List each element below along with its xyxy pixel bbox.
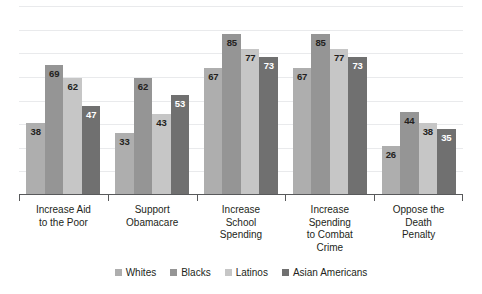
legend-item[interactable]: Blacks — [170, 267, 210, 278]
bar-group: 26443835 — [374, 6, 463, 195]
plot-area: 3869624733624353678577736785777326443835 — [19, 6, 463, 195]
bar-value-label: 85 — [222, 37, 241, 48]
axis-tick — [285, 194, 286, 201]
bar-value-label: 38 — [26, 126, 45, 137]
chart-legend: WhitesBlacksLatinosAsian Americans — [0, 267, 482, 278]
bar-slot: 38 — [419, 123, 438, 195]
bar-slot: 53 — [171, 95, 190, 195]
axis-tick — [19, 194, 20, 201]
bar[interactable]: 73 — [259, 57, 278, 195]
bar-value-label: 47 — [82, 109, 101, 120]
bar-group: 67857773 — [285, 6, 374, 195]
bar-slot: 47 — [82, 106, 101, 195]
bar-value-label: 77 — [241, 52, 260, 63]
bar-group: 67857773 — [197, 6, 286, 195]
bar-slot: 62 — [134, 78, 153, 195]
legend-label: Latinos — [236, 267, 268, 278]
bar-value-label: 85 — [311, 37, 330, 48]
category-label: Support Obamacare — [108, 204, 197, 254]
bar[interactable]: 77 — [241, 49, 260, 195]
axis-tick — [197, 194, 198, 201]
bar-value-label: 26 — [382, 149, 401, 160]
category-label: Increase Spending to Combat Crime — [285, 204, 374, 254]
bar[interactable]: 62 — [134, 78, 153, 195]
bar-value-label: 67 — [293, 71, 312, 82]
bar-value-label: 69 — [45, 68, 64, 79]
axis-tick — [108, 194, 109, 201]
legend-label: Asian Americans — [293, 267, 367, 278]
legend-swatch-icon — [115, 269, 122, 276]
bar-slot: 73 — [259, 57, 278, 195]
bar-value-label: 33 — [115, 136, 134, 147]
bar[interactable]: 53 — [171, 95, 190, 195]
bar-group: 33624353 — [108, 6, 197, 195]
bar[interactable]: 62 — [63, 78, 82, 195]
bar-slot: 85 — [222, 34, 241, 195]
bar[interactable]: 69 — [45, 65, 64, 195]
bar[interactable]: 44 — [400, 112, 419, 195]
bar[interactable]: 33 — [115, 133, 134, 195]
bar-slot: 43 — [152, 114, 171, 195]
bar-value-label: 67 — [204, 71, 223, 82]
bar-slot: 33 — [115, 133, 134, 195]
axis-tick — [462, 194, 463, 201]
bar[interactable]: 38 — [26, 123, 45, 195]
x-axis-line — [19, 194, 463, 195]
bar[interactable]: 43 — [152, 114, 171, 195]
bar-chart: 3869624733624353678577736785777326443835… — [0, 0, 482, 294]
bar[interactable]: 67 — [293, 68, 312, 195]
axis-tick — [374, 194, 375, 201]
bar-slot: 44 — [400, 112, 419, 195]
bar-value-label: 77 — [330, 52, 349, 63]
bar-slot: 77 — [330, 49, 349, 195]
category-label: Oppose the Death Penalty — [374, 204, 463, 254]
bar[interactable]: 38 — [419, 123, 438, 195]
legend-label: Whites — [126, 267, 157, 278]
bar[interactable]: 73 — [348, 57, 367, 195]
bar-group: 38696247 — [19, 6, 108, 195]
bar-value-label: 62 — [134, 81, 153, 92]
category-label: Increase Aid to the Poor — [19, 204, 108, 254]
bar-slot: 73 — [348, 57, 367, 195]
bar-value-label: 35 — [437, 132, 456, 143]
bar-slot: 77 — [241, 49, 260, 195]
bar-slot: 26 — [382, 146, 401, 195]
bar-value-label: 44 — [400, 115, 419, 126]
bar-value-label: 38 — [419, 126, 438, 137]
bar-value-label: 73 — [259, 60, 278, 71]
legend-swatch-icon — [225, 269, 232, 276]
bar-slot: 67 — [204, 68, 223, 195]
bar[interactable]: 85 — [311, 34, 330, 195]
bar-slot: 67 — [293, 68, 312, 195]
bar-slot: 62 — [63, 78, 82, 195]
bar-value-label: 53 — [171, 98, 190, 109]
bar[interactable]: 77 — [330, 49, 349, 195]
bar-slot: 69 — [45, 65, 64, 195]
bar-value-label: 62 — [63, 81, 82, 92]
bar-slot: 35 — [437, 129, 456, 195]
bar-value-label: 73 — [348, 60, 367, 71]
bar[interactable]: 35 — [437, 129, 456, 195]
legend-label: Blacks — [181, 267, 210, 278]
bar[interactable]: 47 — [82, 106, 101, 195]
bar[interactable]: 26 — [382, 146, 401, 195]
bar[interactable]: 67 — [204, 68, 223, 195]
bar-slot: 38 — [26, 123, 45, 195]
bar-value-label: 43 — [152, 117, 171, 128]
legend-swatch-icon — [170, 269, 177, 276]
legend-item[interactable]: Latinos — [225, 267, 268, 278]
legend-item[interactable]: Whites — [115, 267, 157, 278]
category-axis-labels: Increase Aid to the PoorSupport Obamacar… — [19, 204, 463, 254]
bar-slot: 85 — [311, 34, 330, 195]
category-label: Increase School Spending — [197, 204, 286, 254]
bar[interactable]: 85 — [222, 34, 241, 195]
legend-swatch-icon — [282, 269, 289, 276]
bar-groups: 3869624733624353678577736785777326443835 — [19, 6, 463, 195]
legend-item[interactable]: Asian Americans — [282, 267, 367, 278]
